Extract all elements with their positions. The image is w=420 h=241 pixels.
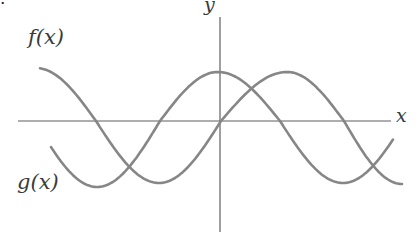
label-f-of-x: f(x) bbox=[28, 25, 64, 49]
label-g-of-x: g(x) bbox=[17, 170, 59, 194]
curve-f bbox=[40, 68, 402, 184]
y-axis-label: y bbox=[204, 0, 215, 15]
figure-canvas: . f(x) g(x) y x bbox=[0, 0, 420, 241]
x-axis-label: x bbox=[396, 104, 407, 126]
